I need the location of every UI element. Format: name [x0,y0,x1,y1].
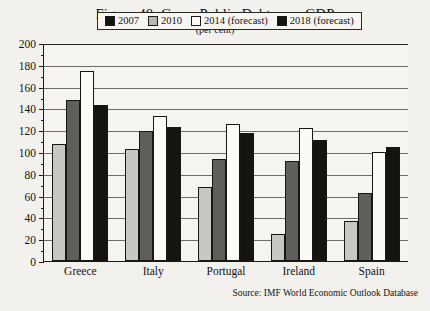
y-axis-label: 120 [19,125,36,137]
bar-italy-2010 [139,131,153,261]
legend-item-2010: 2010 [148,15,182,26]
legend-item-2018: 2018 (forecast) [277,15,354,26]
y-axis-label: 200 [19,38,36,50]
y-axis-label: 60 [25,191,37,203]
axis-tick [39,262,44,263]
legend-label: 2010 [161,15,182,26]
bar-ireland-2018 [313,140,327,261]
bar-ireland-2007 [271,234,285,261]
y-axis-label: 180 [19,60,36,72]
y-axis-label: 80 [25,169,37,181]
y-axis-label: 140 [19,103,36,115]
legend-label: 2007 [118,15,139,26]
x-axis-label-spain: Spain [335,265,408,277]
bar-group-spain: Spain [335,44,408,261]
plot-area: 200180160140120100806040200 GreeceItalyP… [43,44,408,262]
legend-item-2007: 2007 [105,15,139,26]
bar-portugal-2007 [198,187,212,261]
legend-label: 2018 (forecast) [290,15,354,26]
bar-italy-2014 [153,116,167,261]
bar-spain-2018 [386,147,400,261]
bar-portugal-2018 [240,133,254,261]
bar-greece-2010 [66,100,80,261]
bar-ireland-2014 [299,128,313,261]
chart-legend: 200720102014 (forecast)2018 (forecast) [97,12,362,30]
bar-spain-2010 [358,193,372,261]
y-axis-label: 160 [19,82,36,94]
legend-swatch-icon [148,16,158,26]
bar-groups: GreeceItalyPortugalIrelandSpain [44,44,408,261]
x-axis-label-italy: Italy [117,265,190,277]
x-axis-label-ireland: Ireland [262,265,335,277]
bar-greece-2014 [80,71,94,261]
figure-container: Figure 48. Gross Public Debt over GDP (p… [0,0,430,311]
bar-italy-2007 [125,149,139,261]
bar-greece-2018 [94,105,108,261]
legend-swatch-icon [191,16,201,26]
x-axis-label-portugal: Portugal [190,265,263,277]
legend-swatch-icon [105,16,115,26]
bar-portugal-2010 [212,159,226,261]
bar-group-italy: Italy [117,44,190,261]
y-axis-label: 100 [19,147,36,159]
bar-group-portugal: Portugal [190,44,263,261]
source-note: Source: IMF World Economic Outlook Datab… [232,288,418,298]
bar-group-greece: Greece [44,44,117,261]
x-axis-label-greece: Greece [44,265,117,277]
legend-swatch-icon [277,16,287,26]
legend-item-2014: 2014 (forecast) [191,15,268,26]
y-axis-label: 20 [25,234,37,246]
bar-portugal-2014 [226,124,240,261]
bar-group-ireland: Ireland [262,44,335,261]
bar-ireland-2010 [285,161,299,261]
y-axis-label: 40 [25,212,37,224]
legend-label: 2014 (forecast) [204,15,268,26]
y-axis-label: 0 [30,256,36,268]
bar-greece-2007 [52,144,66,261]
bar-spain-2007 [344,221,358,261]
bar-spain-2014 [372,152,386,261]
bar-italy-2018 [167,127,181,261]
